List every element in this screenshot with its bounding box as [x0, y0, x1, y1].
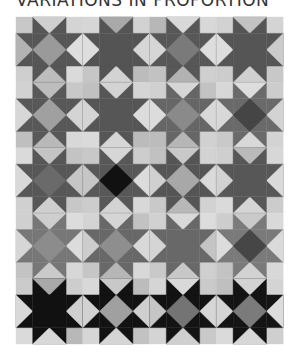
- star-block: [216, 148, 283, 213]
- star-block: [16, 279, 83, 344]
- star-block: [16, 148, 83, 213]
- star-block: [83, 148, 150, 213]
- star-block: [83, 17, 150, 82]
- star-block: [150, 148, 217, 213]
- star-block: [150, 213, 217, 278]
- star-block: [83, 82, 150, 147]
- quilt-image: [0, 0, 296, 362]
- star-block: [16, 213, 83, 278]
- star-block: [16, 17, 83, 82]
- star-block: [216, 213, 283, 278]
- star-block: [216, 279, 283, 344]
- star-block: [16, 82, 83, 147]
- star-block: [150, 82, 217, 147]
- star-block: [216, 82, 283, 147]
- star-block: [83, 213, 150, 278]
- star-block: [216, 17, 283, 82]
- star-block: [83, 279, 150, 344]
- star-block: [150, 279, 217, 344]
- star-block: [150, 17, 217, 82]
